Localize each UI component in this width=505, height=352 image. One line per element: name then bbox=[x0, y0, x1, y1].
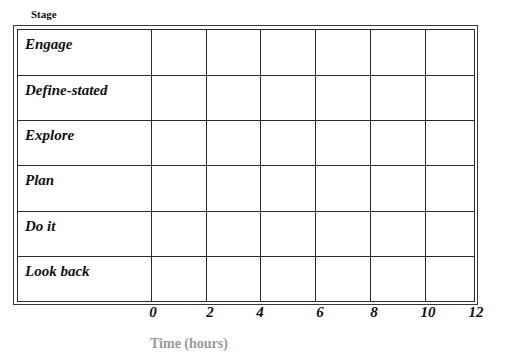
row-divider bbox=[17, 211, 475, 212]
x-tick-label: 0 bbox=[149, 303, 157, 321]
row-divider bbox=[17, 75, 475, 76]
row-divider bbox=[17, 256, 475, 257]
row-divider bbox=[17, 165, 475, 166]
x-tick-label: 8 bbox=[370, 303, 378, 321]
x-tick-label: 6 bbox=[316, 303, 324, 321]
x-tick-label: 12 bbox=[469, 303, 484, 321]
row-label-engage: Engage bbox=[25, 35, 73, 53]
row-label-plan: Plan bbox=[25, 171, 54, 189]
grid-line-4 bbox=[260, 29, 261, 302]
x-tick-label: 10 bbox=[421, 303, 436, 321]
grid-line-8 bbox=[370, 29, 371, 302]
row-divider bbox=[17, 120, 475, 121]
grid-line-10 bbox=[425, 29, 426, 302]
grid-line-2 bbox=[206, 29, 207, 302]
x-tick-label: 2 bbox=[206, 303, 214, 321]
row-label-explore: Explore bbox=[25, 126, 74, 144]
grid-line-6 bbox=[315, 29, 316, 302]
stage-column-header: Stage bbox=[31, 7, 57, 21]
row-label-do-it: Do it bbox=[25, 217, 55, 235]
row-label-define-stated: Define-stated bbox=[25, 81, 107, 99]
grid-line-0 bbox=[151, 29, 152, 302]
figure-caption: Time (hours) bbox=[150, 336, 228, 352]
x-tick-label: 4 bbox=[256, 303, 264, 321]
row-label-look-back: Look back bbox=[25, 262, 90, 280]
